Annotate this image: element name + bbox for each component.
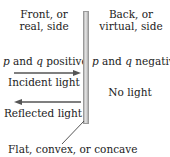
- reflected-arrow-icon: [14, 99, 81, 105]
- mirror-sign-convention-diagram: Front, or real, side p and q positive In…: [0, 0, 170, 157]
- mirror-pointer-line: [62, 121, 84, 144]
- mirror-caption: Flat, convex, or concave: [8, 143, 137, 155]
- incident-arrow-icon: [14, 70, 81, 76]
- arrows-layer: [0, 0, 170, 157]
